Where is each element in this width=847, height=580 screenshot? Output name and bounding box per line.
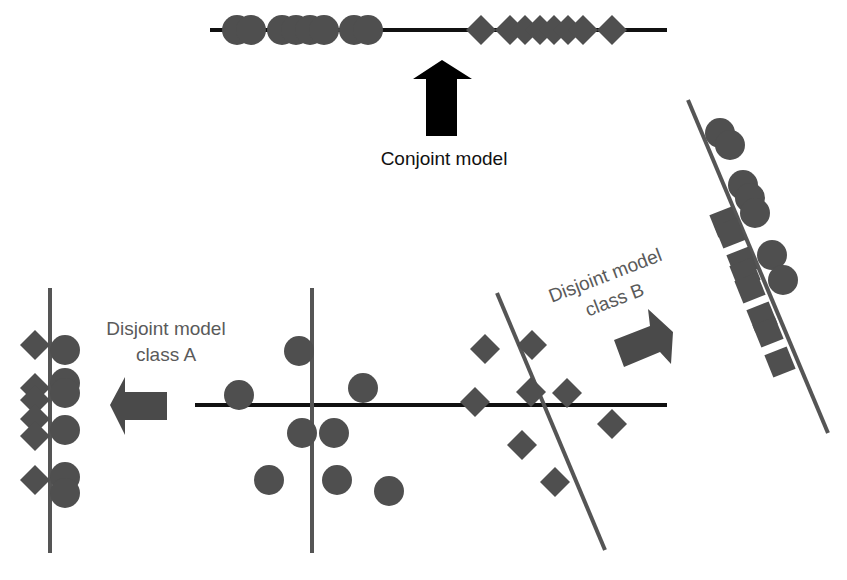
circle-marker: [740, 198, 770, 228]
circle-marker: [353, 15, 383, 45]
diamond-marker: [470, 334, 500, 364]
diamond-marker: [597, 15, 627, 45]
circle-marker: [374, 476, 404, 506]
diamond-marker: [460, 387, 490, 417]
left-arrow-icon: [110, 377, 167, 435]
square-marker: [764, 346, 795, 377]
diamond-marker: [540, 467, 570, 497]
conjoint-model-label: Conjoint model: [370, 146, 518, 172]
circle-marker: [254, 465, 284, 495]
circle-marker: [50, 335, 80, 365]
circle-marker: [348, 373, 378, 403]
diamond-marker: [20, 465, 50, 495]
diamond-marker: [507, 430, 537, 460]
diamond-marker: [20, 330, 50, 360]
up-arrow-icon: [413, 60, 472, 136]
class-a-label-line1: Disjoint model: [96, 316, 236, 342]
diamond-marker: [466, 15, 496, 45]
diamond-marker: [20, 421, 50, 451]
original-data-panel: [224, 330, 627, 506]
circle-marker: [236, 15, 266, 45]
diagram-canvas: [0, 0, 847, 580]
right-up-arrow-icon: [614, 309, 673, 367]
diamond-marker: [597, 409, 627, 439]
circle-marker: [284, 336, 314, 366]
circle-marker: [309, 15, 339, 45]
circle-marker: [287, 418, 317, 448]
circle-marker: [715, 130, 745, 160]
circle-marker: [768, 265, 798, 295]
circle-marker: [50, 478, 80, 508]
class-a-label-line2: class A: [96, 342, 236, 368]
circle-marker: [224, 380, 254, 410]
conjoint-model-text: Conjoint model: [381, 148, 508, 169]
circle-marker: [319, 418, 349, 448]
circle-marker: [322, 465, 352, 495]
circle-marker: [50, 378, 80, 408]
disjoint-model-class-a-label: Disjoint model class A: [96, 316, 236, 368]
arrows: [110, 60, 673, 435]
circle-marker: [50, 415, 80, 445]
class-b-axis-line: [688, 100, 828, 433]
